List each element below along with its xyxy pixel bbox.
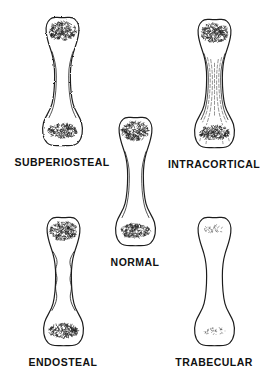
bone-trabecular-illustration bbox=[186, 212, 243, 354]
bone-intracortical-illustration bbox=[186, 14, 243, 156]
bone-label-endosteal: ENDOSTEAL bbox=[29, 356, 98, 368]
bone-label-trabecular: TRABECULAR bbox=[175, 356, 252, 368]
bone-resorption-diagram: SUBPERIOSTEAL INTRACORTICAL NORMAL ENDOS… bbox=[0, 0, 272, 374]
bone-label-normal: NORMAL bbox=[111, 256, 160, 268]
figure-trabecular: TRABECULAR bbox=[161, 212, 267, 368]
figure-endosteal: ENDOSTEAL bbox=[10, 212, 116, 368]
bone-endosteal-illustration bbox=[35, 212, 92, 354]
